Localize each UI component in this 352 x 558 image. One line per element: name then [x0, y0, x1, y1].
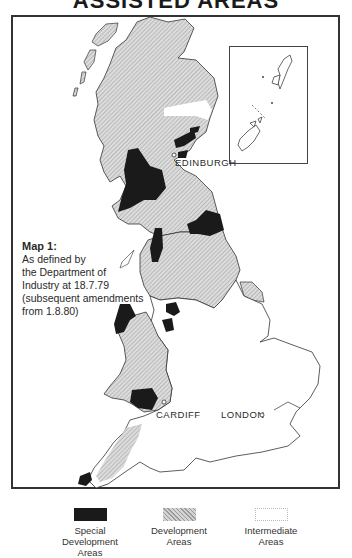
london-marker-icon [260, 413, 264, 417]
legend-label-line: Areas [134, 536, 224, 547]
legend-label-line: Development [45, 536, 135, 547]
legend-label-line: Areas [45, 547, 135, 558]
legend-label-line: Areas [226, 536, 316, 547]
special-development-swatch-icon [74, 508, 107, 521]
legend-item-intermediate: Intermediate Areas [226, 508, 316, 547]
edinburgh-marker-icon [172, 153, 176, 157]
cardiff-marker-icon [162, 400, 166, 404]
intermediate-swatch-icon [255, 508, 288, 521]
legend-label-line: Special [45, 525, 135, 536]
legend-label-line: Development [134, 525, 224, 536]
legend-item-special-development: Special Development Areas [45, 508, 135, 558]
legend-item-development: Development Areas [134, 508, 224, 547]
legend-label-line: Intermediate [226, 525, 316, 536]
map-legend: Special Development Areas Development Ar… [0, 508, 352, 555]
development-swatch-icon [163, 508, 196, 521]
